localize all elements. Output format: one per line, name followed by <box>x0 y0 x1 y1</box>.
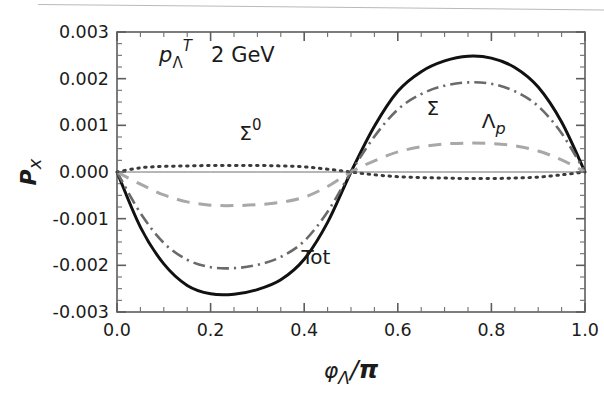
momentum-annotation: pΛT2 GeV <box>158 37 275 72</box>
data-curves <box>117 56 585 295</box>
svg-text:Σ0: Σ0 <box>239 116 261 145</box>
label-sigma: Σ <box>427 96 440 120</box>
y-axis-title: Px <box>16 158 45 185</box>
svg-text:Σ: Σ <box>427 96 440 120</box>
x-tick-label: 1.0 <box>571 320 599 340</box>
plot-annotations: pΛT2 GeVΣ0ΣΛpTot <box>158 37 506 269</box>
y-tick-label: -0.003 <box>53 302 109 322</box>
y-tick-label: 0.003 <box>59 22 109 42</box>
figure-canvas: 0.00.20.40.60.81.0 0.0030.0020.0010.000-… <box>0 0 604 396</box>
momentum-annotation-value: 2 GeV <box>211 43 275 67</box>
x-tick-label: 0.8 <box>477 320 505 340</box>
x-tick-label: 0.4 <box>290 320 318 340</box>
svg-text:Tot: Tot <box>300 245 330 269</box>
y-tick-label: -0.002 <box>53 255 109 275</box>
y-tick-label: -0.001 <box>53 209 109 229</box>
x-tick-label: 0.0 <box>103 320 131 340</box>
x-tick-label: 0.2 <box>197 320 225 340</box>
label-tot: Tot <box>300 245 330 269</box>
plot-svg: 0.00.20.40.60.81.0 0.0030.0020.0010.000-… <box>0 0 604 396</box>
y-axis-tick-labels: 0.0030.0020.0010.000-0.001-0.002-0.003 <box>53 22 109 322</box>
svg-text:Px: Px <box>16 158 45 185</box>
x-axis-tick-labels: 0.00.20.40.60.81.0 <box>103 320 599 340</box>
svg-text:φΛ/π: φΛ/π <box>324 355 379 388</box>
y-tick-label: 0.001 <box>59 115 109 135</box>
svg-text:pΛT: pΛT <box>158 37 194 72</box>
svg-text:Λp: Λp <box>482 109 506 138</box>
x-tick-label: 0.6 <box>384 320 412 340</box>
y-tick-label: 0.002 <box>59 69 109 89</box>
label-lambda-p: Λp <box>482 109 506 138</box>
label-sigma0: Σ0 <box>239 116 261 145</box>
x-axis-title: φΛ/π <box>324 355 379 388</box>
y-tick-label: 0.000 <box>59 162 109 182</box>
